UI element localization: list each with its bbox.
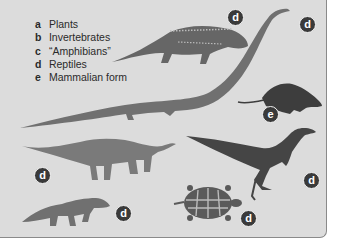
- figure-panel: a Plants b Invertebrates c “Amphibians” …: [0, 0, 327, 238]
- rodent-icon: [238, 84, 322, 114]
- tortoise-icon: [174, 185, 242, 221]
- long-neck-reptile-icon: [20, 9, 290, 128]
- small-reptile-icon: [22, 198, 110, 226]
- badge-armored-reptile: d: [227, 9, 244, 26]
- badge-long-neck-reptile: d: [299, 16, 316, 33]
- badge-theropod: d: [303, 172, 320, 189]
- badge-small-reptile: d: [115, 205, 132, 222]
- badge-rodent: e: [262, 106, 279, 123]
- badge-sauropod: d: [34, 167, 51, 184]
- illustration: [0, 0, 327, 238]
- badge-tortoise: d: [240, 210, 257, 227]
- armored-reptile-icon: [112, 26, 248, 64]
